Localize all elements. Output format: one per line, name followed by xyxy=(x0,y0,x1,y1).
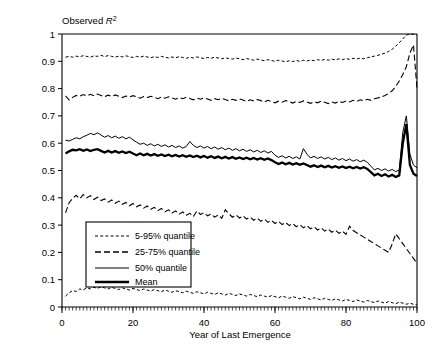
x-tick-label: 60 xyxy=(270,317,281,328)
x-axis-minor-ticks xyxy=(62,307,417,311)
legend-label-50-quantile: 50% quantile xyxy=(135,263,187,273)
x-tick-label: 80 xyxy=(341,317,352,328)
y-tick-label: 0.4 xyxy=(42,192,55,203)
legend-label-5-95-quantile: 5-95% quantile xyxy=(135,231,195,241)
y-tick-label: 0.2 xyxy=(42,247,55,258)
x-tick-label: 40 xyxy=(199,317,210,328)
y-tick-label: 0.1 xyxy=(42,274,55,285)
y-axis-ticks: 00.10.20.30.40.50.60.70.80.91 xyxy=(42,29,62,313)
series-50-quantile xyxy=(66,116,417,172)
series-95-quantile xyxy=(66,34,417,62)
y-tick-label: 0 xyxy=(50,302,55,313)
y-tick-label: 1 xyxy=(50,29,55,40)
x-tick-label: 100 xyxy=(409,317,425,328)
y-tick-label: 0.9 xyxy=(42,56,55,67)
chart-figure: Observed R2 00.10.20.30.40.50.60.70.80.9… xyxy=(0,0,432,351)
series-75-quantile xyxy=(66,45,417,104)
y-tick-label: 0.7 xyxy=(42,110,55,121)
x-tick-label: 20 xyxy=(128,317,139,328)
y-tick-label: 0.6 xyxy=(42,138,55,149)
series-5-quantile xyxy=(66,287,417,305)
legend-label-mean: Mean xyxy=(135,277,158,287)
observed-r2-line-chart: Observed R2 00.10.20.30.40.50.60.70.80.9… xyxy=(0,0,432,351)
y-tick-label: 0.5 xyxy=(42,165,55,176)
y-axis-title: Observed R2 xyxy=(62,15,117,27)
y-tick-label: 0.8 xyxy=(42,83,55,94)
x-axis-ticks: 020406080100 xyxy=(59,307,425,328)
y-tick-label: 0.3 xyxy=(42,220,55,231)
x-tick-label: 0 xyxy=(59,317,64,328)
legend-label-25-75-quantile: 25-75% quantile xyxy=(135,247,200,257)
x-axis-title: Year of Last Emergence xyxy=(189,329,291,340)
chart-legend: 5-95% quantile 25-75% quantile 50% quant… xyxy=(86,222,200,287)
